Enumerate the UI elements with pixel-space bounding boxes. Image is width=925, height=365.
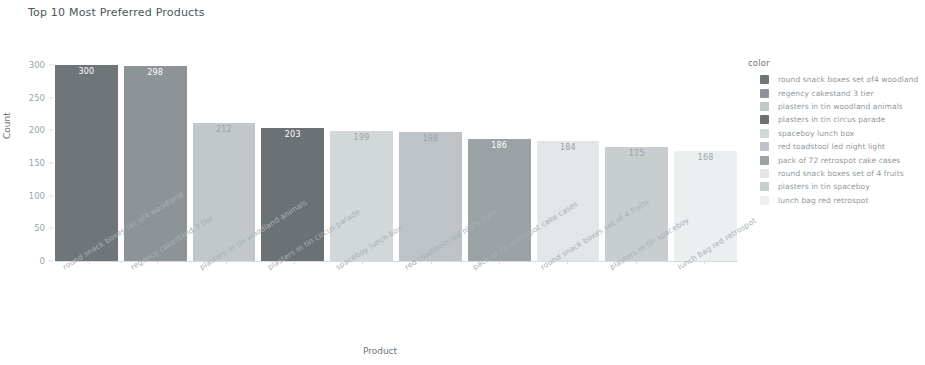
bar-value-label: 199 bbox=[330, 133, 393, 142]
legend-swatch bbox=[760, 129, 769, 138]
bar-value-label: 168 bbox=[674, 153, 737, 162]
chart-container: Top 10 Most Preferred Products Count 050… bbox=[0, 0, 925, 365]
legend-item[interactable]: spaceboy lunch box bbox=[748, 127, 923, 140]
bar-slot: 298 bbox=[124, 65, 187, 261]
legend-swatch bbox=[760, 196, 769, 205]
bar-value-label: 186 bbox=[468, 141, 531, 150]
y-tick-mark bbox=[49, 261, 53, 262]
y-tick-mark bbox=[49, 65, 53, 66]
legend-label: regency cakestand 3 tier bbox=[778, 89, 874, 98]
legend-swatch bbox=[760, 75, 769, 84]
legend-label: plasters in tin spaceboy bbox=[778, 182, 870, 191]
x-tick-mark bbox=[362, 261, 363, 264]
x-axis-labels: round snack boxes set of4 woodlandregenc… bbox=[55, 264, 738, 344]
x-tick-mark bbox=[157, 261, 158, 264]
legend-item[interactable]: red toadstool led night light bbox=[748, 140, 923, 153]
bar-value-label: 300 bbox=[55, 67, 118, 76]
legend-item[interactable]: regency cakestand 3 tier bbox=[748, 86, 923, 99]
legend-item[interactable]: plasters in tin spaceboy bbox=[748, 180, 923, 193]
x-tick-mark bbox=[226, 261, 227, 264]
x-tick-mark bbox=[431, 261, 432, 264]
y-tick-mark bbox=[49, 130, 53, 131]
bar-value-label: 184 bbox=[537, 143, 600, 152]
legend-label: spaceboy lunch box bbox=[778, 129, 854, 138]
legend-item[interactable]: lunch bag red retrospot bbox=[748, 194, 923, 207]
legend-swatch bbox=[760, 115, 769, 124]
legend-label: round snack boxes set of 4 fruits bbox=[778, 169, 904, 178]
legend-title: color bbox=[748, 58, 923, 68]
bar-value-label: 175 bbox=[605, 149, 668, 158]
x-tick-mark bbox=[499, 261, 500, 264]
legend-label: pack of 72 retrospot cake cases bbox=[778, 156, 900, 165]
y-tick-mark bbox=[49, 97, 53, 98]
bar-value-label: 198 bbox=[399, 134, 462, 143]
bar-slot: 203 bbox=[261, 65, 324, 261]
legend-swatch bbox=[760, 102, 769, 111]
bar[interactable]: 298 bbox=[124, 66, 187, 261]
y-tick-label: 150 bbox=[29, 158, 45, 168]
bar-value-label: 298 bbox=[124, 68, 187, 77]
x-tick-mark bbox=[89, 261, 90, 264]
legend-swatch bbox=[760, 142, 769, 151]
legend-swatch bbox=[760, 169, 769, 178]
legend: color round snack boxes set of4 woodland… bbox=[748, 58, 923, 207]
y-tick-mark bbox=[49, 163, 53, 164]
y-tick-label: 250 bbox=[29, 93, 45, 103]
chart-title: Top 10 Most Preferred Products bbox=[28, 6, 205, 19]
legend-label: red toadstool led night light bbox=[778, 142, 885, 151]
bar-slot: 300 bbox=[55, 65, 118, 261]
legend-item[interactable]: pack of 72 retrospot cake cases bbox=[748, 153, 923, 166]
bar-value-label: 203 bbox=[261, 130, 324, 139]
x-tick-mark bbox=[704, 261, 705, 264]
legend-label: round snack boxes set of4 woodland bbox=[778, 75, 918, 84]
y-tick-label: 100 bbox=[29, 191, 45, 201]
legend-swatch bbox=[760, 156, 769, 165]
legend-label: plasters in tin woodland animals bbox=[778, 102, 903, 111]
y-tick-mark bbox=[49, 228, 53, 229]
bar[interactable]: 184 bbox=[537, 141, 600, 261]
x-axis-title: Product bbox=[0, 346, 760, 356]
legend-item[interactable]: plasters in tin woodland animals bbox=[748, 100, 923, 113]
legend-item[interactable]: round snack boxes set of4 woodland bbox=[748, 73, 923, 86]
legend-item[interactable]: round snack boxes set of 4 fruits bbox=[748, 167, 923, 180]
x-tick-mark bbox=[567, 261, 568, 264]
legend-items: round snack boxes set of4 woodlandregenc… bbox=[748, 73, 923, 207]
legend-swatch bbox=[760, 182, 769, 191]
legend-label: lunch bag red retrospot bbox=[778, 196, 869, 205]
y-tick-label: 300 bbox=[29, 60, 45, 70]
legend-label: plasters in tin circus parade bbox=[778, 115, 885, 124]
y-tick-label: 50 bbox=[34, 223, 45, 233]
bar-slot: 212 bbox=[193, 65, 256, 261]
y-tick-mark bbox=[49, 195, 53, 196]
x-tick-mark bbox=[636, 261, 637, 264]
legend-item[interactable]: plasters in tin circus parade bbox=[748, 113, 923, 126]
bar-value-label: 212 bbox=[193, 125, 256, 134]
y-tick-label: 0 bbox=[40, 256, 45, 266]
x-tick-mark bbox=[294, 261, 295, 264]
legend-swatch bbox=[760, 89, 769, 98]
bar[interactable]: 300 bbox=[55, 65, 118, 261]
y-tick-label: 200 bbox=[29, 125, 45, 135]
y-axis-ticks: 050100150200250300 bbox=[0, 65, 53, 261]
